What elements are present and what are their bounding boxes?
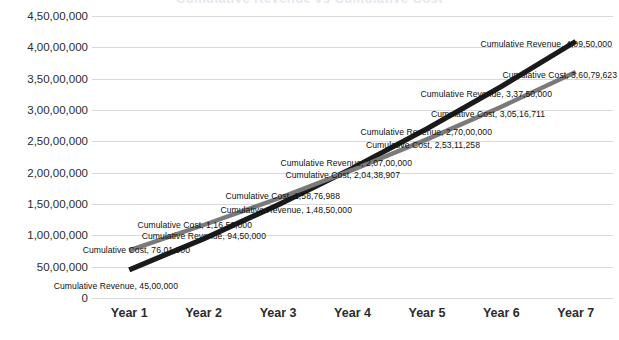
chart-container: Cumulative Revenue vs Cumulative Cost 4,… (0, 0, 619, 340)
y-axis-tick-label: 50,00,000 (2, 261, 88, 273)
data-point-label: Cumulative Cost, 1,58,76,988 (225, 191, 340, 201)
y-axis-tick-label: 2,50,00,000 (2, 135, 88, 147)
y-axis-tick-label: 0 (2, 292, 88, 304)
chart-title: Cumulative Revenue vs Cumulative Cost (0, 0, 619, 5)
series-lines (92, 16, 613, 298)
data-point-label: Cumulative Cost, 2,04,38,907 (285, 170, 400, 180)
x-axis-tick-label: Year 3 (260, 306, 297, 320)
x-axis-tick-label: Year 7 (557, 306, 594, 320)
x-axis-tick-label: Year 5 (409, 306, 446, 320)
x-axis: Year 1Year 2Year 3Year 4Year 5Year 6Year… (92, 306, 613, 330)
x-axis-tick-label: Year 1 (111, 306, 148, 320)
plot-area (92, 16, 613, 298)
data-point-label: Cumulative Revenue, 94,50,000 (142, 231, 266, 241)
data-point-label: Cumulative Cost, 3,05,16,711 (431, 109, 545, 119)
data-point-label: Cumulative Cost, 76,01,000 (83, 245, 190, 255)
data-point-label: Cumulative Revenue, 1,48,50,000 (221, 205, 353, 215)
data-point-label: Cumulative Revenue, 4,09,50,000 (481, 39, 613, 49)
y-axis-tick-label: 1,00,00,000 (2, 229, 88, 241)
data-point-label: Cumulative Revenue, 2,70,00,000 (361, 127, 493, 137)
x-axis-tick-label: Year 2 (185, 306, 222, 320)
y-axis-tick-label: 4,00,00,000 (2, 41, 88, 53)
data-point-label: Cumulative Revenue, 3,37,50,000 (421, 89, 553, 99)
data-point-label: Cumulative Cost, 3,60,79,623 (502, 70, 617, 80)
y-axis-tick-label: 2,00,00,000 (2, 167, 88, 179)
x-axis-tick-label: Year 6 (483, 306, 520, 320)
y-axis-tick-label: 4,50,00,000 (2, 10, 88, 22)
data-point-label: Cumulative Cost, 2,53,11,258 (366, 140, 480, 150)
y-axis-tick-label: 1,50,00,000 (2, 198, 88, 210)
y-axis-tick-label: 3,50,00,000 (2, 73, 88, 85)
data-point-label: Cumulative Cost, 1,16,50,000 (137, 220, 252, 230)
y-axis: 4,50,00,0004,00,00,0003,50,00,0003,00,00… (0, 16, 88, 298)
x-axis-tick-label: Year 4 (334, 306, 371, 320)
data-point-label: Cumulative Revenue, 2,07,00,000 (281, 158, 413, 168)
y-axis-tick-label: 3,00,00,000 (2, 104, 88, 116)
gridline (92, 298, 613, 299)
data-point-label: Cumulative Revenue, 45,00,000 (54, 281, 178, 291)
